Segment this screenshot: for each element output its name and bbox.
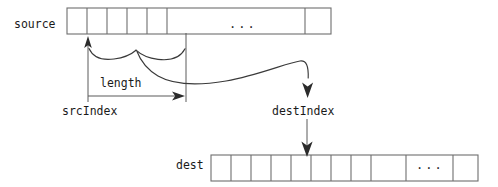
- src-index-pointer: [84, 36, 92, 102]
- dest-ellipsis-cell-text: ...: [416, 158, 444, 172]
- array-copy-diagram: source length srcIndex destIndex dest ..…: [0, 0, 498, 187]
- dest-index-pointer: [301, 119, 312, 157]
- dest-index-label: destIndex: [272, 104, 334, 118]
- length-curly-brace: [89, 49, 185, 60]
- source-array-label: source: [14, 17, 56, 31]
- copy-flow-path: [137, 52, 308, 84]
- length-label: length: [100, 76, 142, 90]
- source-ellipsis-cell-text: ...: [229, 17, 257, 31]
- source-array: [67, 8, 331, 34]
- copy-flow-curve: [137, 52, 313, 99]
- dest-index-arrowhead-icon: [302, 83, 313, 99]
- src-index-label: srcIndex: [62, 104, 117, 118]
- dest-array-label: dest: [176, 158, 204, 172]
- length-measure-arrow: [88, 92, 185, 101]
